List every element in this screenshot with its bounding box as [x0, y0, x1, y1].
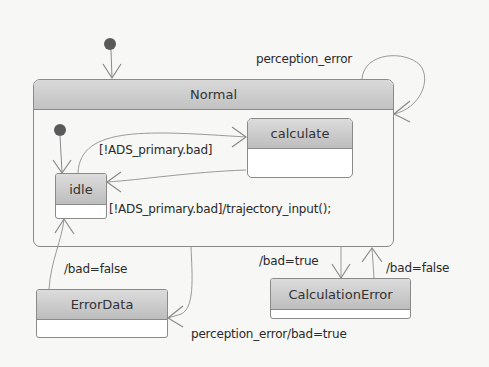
state-idle[interactable]: idle	[55, 173, 107, 219]
state-calculation-error[interactable]: CalculationError	[270, 278, 411, 319]
state-idle-name: idle	[69, 182, 92, 197]
transition-calculation-error-to-normal	[372, 248, 374, 278]
label-normal-to-error-data: perception_error/bad=true	[191, 327, 347, 341]
label-calculate-to-idle: [!ADS_primary.bad]/trajectory_input();	[109, 202, 331, 216]
label-error-data-to-idle: /bad=false	[64, 262, 127, 276]
state-calculation-error-header: CalculationError	[271, 279, 410, 310]
initial-transition-normal	[111, 50, 112, 78]
state-idle-header: idle	[56, 174, 106, 205]
state-calculate-name: calculate	[271, 126, 330, 141]
state-normal-header: Normal	[34, 80, 393, 110]
arrowhead-normal-error-data	[168, 306, 183, 327]
state-calculate-header: calculate	[248, 119, 352, 149]
state-calculate[interactable]: calculate	[247, 118, 353, 178]
initial-node-top	[104, 38, 116, 50]
state-error-data[interactable]: ErrorData	[36, 289, 168, 338]
label-normal-to-calculation-error: /bad=true	[259, 254, 319, 268]
label-normal-self-loop: perception_error	[256, 52, 352, 66]
label-calculation-error-to-normal: /bad=false	[386, 261, 449, 275]
state-diagram: Normal calculate idle ErrorData Calculat…	[0, 0, 489, 367]
label-idle-to-calculate: [!ADS_primary.bad]	[99, 143, 212, 157]
state-calculation-error-name: CalculationError	[288, 287, 392, 302]
transition-normal-to-error-data	[168, 246, 192, 318]
state-normal-name: Normal	[190, 87, 237, 102]
state-error-data-header: ErrorData	[37, 290, 167, 320]
state-error-data-name: ErrorData	[71, 297, 134, 312]
